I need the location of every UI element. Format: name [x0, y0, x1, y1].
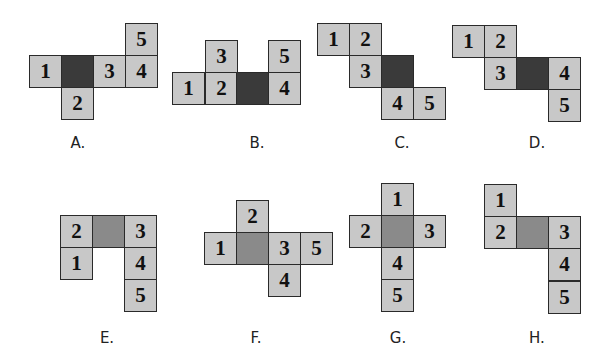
net-option-f: 21354F.: [0, 0, 612, 362]
shaded-face-square: [236, 232, 269, 265]
numbered-face-square: 4: [548, 248, 581, 281]
numbered-face-square: 3: [484, 57, 517, 90]
numbered-face-square: 2: [349, 215, 382, 248]
option-label: A.: [71, 134, 86, 152]
option-label: B.: [249, 134, 264, 152]
option-label: D.: [529, 134, 545, 152]
shaded-face-square: [236, 72, 269, 105]
numbered-face-square: 1: [452, 25, 485, 58]
numbered-face-square: 3: [268, 232, 301, 265]
numbered-face-square: 1: [317, 23, 350, 56]
numbered-face-square: 2: [236, 200, 269, 233]
shaded-face-square: [92, 215, 125, 248]
numbered-face-square: 1: [381, 183, 414, 216]
numbered-face-square: 3: [349, 55, 382, 88]
numbered-face-square: 2: [61, 87, 94, 120]
numbered-face-square: 4: [268, 72, 301, 105]
numbered-face-square: 4: [125, 55, 158, 88]
numbered-face-square: 5: [268, 40, 301, 73]
numbered-face-square: 2: [349, 23, 382, 56]
numbered-face-square: 1: [60, 247, 93, 280]
option-label: G.: [390, 329, 406, 347]
shaded-face-square: [381, 215, 414, 248]
numbered-face-square: 5: [300, 232, 333, 265]
numbered-face-square: 1: [204, 232, 237, 265]
numbered-face-square: 4: [381, 87, 414, 120]
numbered-face-square: 1: [484, 184, 517, 217]
shaded-face-square: [381, 55, 414, 88]
numbered-face-square: 5: [124, 279, 157, 312]
shaded-face-square: [516, 216, 549, 249]
net-option-a: 51342A.: [0, 0, 612, 362]
numbered-face-square: 4: [124, 247, 157, 280]
numbered-face-square: 5: [381, 279, 414, 312]
shaded-face-square: [61, 55, 94, 88]
numbered-face-square: 5: [548, 89, 581, 122]
numbered-face-square: 2: [205, 72, 238, 105]
net-option-g: 12345G.: [0, 0, 612, 362]
shaded-face-square: [516, 57, 549, 90]
net-option-h: 12345H.: [0, 0, 612, 362]
cube-net-options-diagram: 51342A.35124B.12345C.12345D.23145E.21354…: [0, 0, 612, 362]
net-option-c: 12345C.: [0, 0, 612, 362]
numbered-face-square: 3: [413, 215, 446, 248]
numbered-face-square: 3: [124, 215, 157, 248]
numbered-face-square: 4: [548, 57, 581, 90]
numbered-face-square: 1: [29, 55, 62, 88]
numbered-face-square: 5: [125, 23, 158, 56]
option-label: H.: [529, 329, 545, 347]
numbered-face-square: 2: [484, 216, 517, 249]
numbered-face-square: 3: [205, 40, 238, 73]
numbered-face-square: 5: [548, 281, 581, 314]
numbered-face-square: 2: [60, 215, 93, 248]
numbered-face-square: 3: [548, 216, 581, 249]
net-option-d: 12345D.: [0, 0, 612, 362]
net-option-b: 35124B.: [0, 0, 612, 362]
net-option-e: 23145E.: [0, 0, 612, 362]
numbered-face-square: 2: [484, 25, 517, 58]
numbered-face-square: 4: [381, 247, 414, 280]
numbered-face-square: 4: [268, 264, 301, 297]
numbered-face-square: 3: [93, 55, 126, 88]
option-label: E.: [100, 329, 114, 347]
numbered-face-square: 5: [413, 87, 446, 120]
option-label: C.: [394, 134, 409, 152]
option-label: F.: [251, 329, 262, 347]
numbered-face-square: 1: [172, 72, 205, 105]
